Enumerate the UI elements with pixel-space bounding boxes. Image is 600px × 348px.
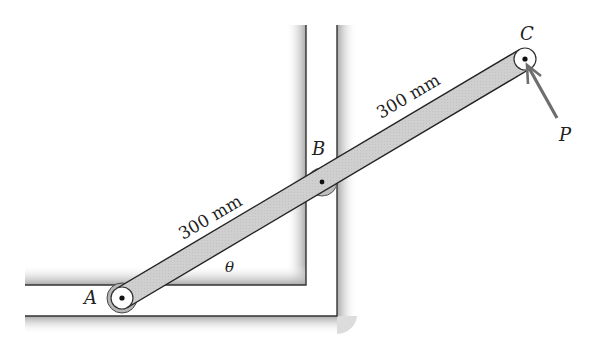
inner-slot-edge bbox=[25, 25, 306, 285]
inner-vertical-wall-shade bbox=[286, 25, 306, 285]
pin-a-dot bbox=[119, 295, 124, 300]
label-p: P bbox=[558, 124, 572, 145]
label-b: B bbox=[311, 138, 325, 159]
outer-corner-shade bbox=[337, 316, 357, 334]
link-abc bbox=[117, 50, 531, 308]
outer-horizontal-wall-shade bbox=[25, 316, 337, 334]
pin-c-dot bbox=[522, 56, 527, 61]
pin-a bbox=[111, 287, 133, 309]
bar-edge-top bbox=[117, 50, 520, 289]
label-a: A bbox=[82, 287, 97, 308]
angle-theta-label: θ bbox=[225, 258, 234, 276]
bar-body bbox=[117, 50, 531, 308]
pin-c bbox=[514, 48, 536, 70]
label-c: C bbox=[520, 23, 534, 44]
force-p-arrow bbox=[527, 65, 557, 118]
mechanism-diagram: A B C P θ 300 mm 300 mm bbox=[0, 0, 600, 348]
bar-edge-bottom bbox=[128, 69, 531, 308]
pin-b-dot bbox=[320, 180, 325, 185]
force-p-shaft bbox=[529, 68, 557, 118]
